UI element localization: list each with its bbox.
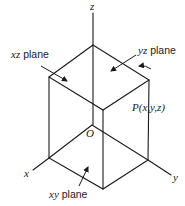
- x-axis: [33, 158, 49, 170]
- y-axis-label: y: [172, 171, 178, 183]
- yz-plane-arrow: [111, 55, 136, 71]
- yz-plane-label: yzplane: [137, 44, 176, 56]
- xy-plane-label: xyplane: [48, 188, 88, 200]
- coordinate-box-diagram: O z x y P(x,y,z) xzplane yzplane xyplane: [0, 0, 185, 206]
- box-edge-right: [148, 80, 149, 160]
- yz-plane-curved-arrow: [139, 66, 151, 69]
- z-axis-label: z: [89, 0, 95, 12]
- origin-label: O: [86, 127, 94, 139]
- x-axis-label: x: [23, 167, 29, 179]
- box-bottom-face-xy-plane: [49, 125, 148, 189]
- y-axis: [148, 160, 171, 175]
- xz-plane-label: xzplane: [10, 48, 49, 60]
- diagram-canvas: O z x y P(x,y,z) xzplane yzplane xyplane: [0, 0, 185, 206]
- xz-plane-arrow: [41, 66, 67, 81]
- point-p-label: P(x,y,z): [131, 101, 165, 114]
